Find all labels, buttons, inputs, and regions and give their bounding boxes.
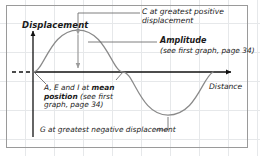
annotation-mean-prefix: A, E and I at: [44, 83, 91, 92]
y-axis-label: Displacement: [22, 20, 89, 30]
annotation-amplitude-subtitle: (see first graph, page 34): [160, 47, 255, 56]
annotation-peak: C at greatest positive displacement: [142, 8, 246, 26]
annotation-amplitude-title: Amplitude: [160, 36, 206, 45]
annotation-trough: G at greatest negative displacement: [40, 126, 176, 135]
figure-canvas: Displacement Distance C at greatest posi…: [0, 0, 260, 156]
annotation-mean-position: A, E and I at mean position (see first g…: [44, 84, 140, 110]
x-axis-label: Distance: [209, 83, 242, 92]
